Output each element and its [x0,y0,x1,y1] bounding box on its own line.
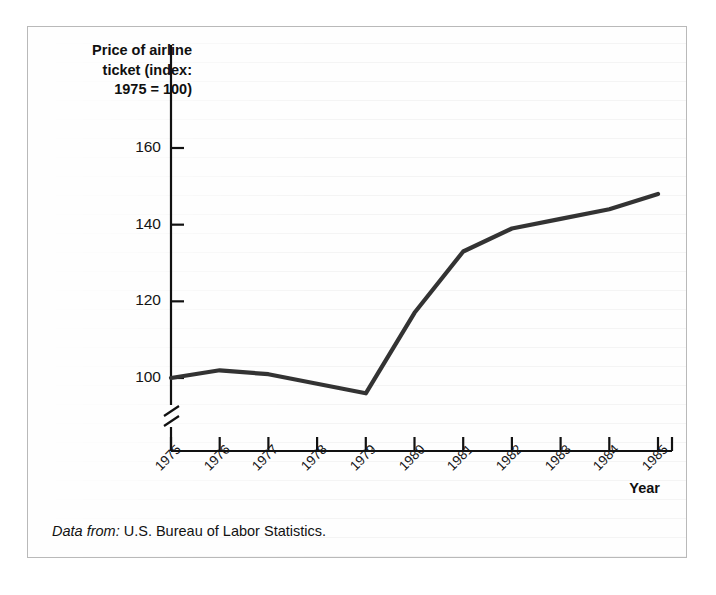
source-note-lead: Data from: [52,523,120,539]
y-axis-break-icon [164,406,179,426]
x-axis-title: Year [629,479,660,499]
axes-group [171,45,672,451]
axis-ticks-group [171,148,658,451]
y-tick-label: 140 [115,215,161,233]
y-tick-label: 100 [115,368,161,386]
figure-frame: Price of airline ticket (index: 1975 = 1… [27,26,687,558]
data-series-line [171,194,658,393]
source-note-text: U.S. Bureau of Labor Statistics. [120,523,326,539]
source-note: Data from: U.S. Bureau of Labor Statisti… [52,523,326,539]
y-tick-label: 160 [115,138,161,156]
y-tick-label: 120 [115,291,161,309]
